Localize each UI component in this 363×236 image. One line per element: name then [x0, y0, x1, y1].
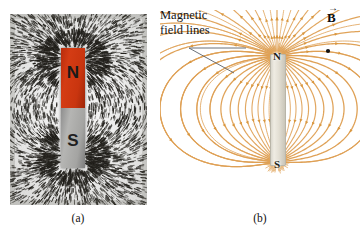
diagram-north-pole-label: N [265, 50, 289, 62]
field-line-arrowhead [266, 34, 270, 38]
field-line-arrowhead [257, 16, 261, 20]
field-line [181, 56, 276, 163]
photo-south-pole-label: S [61, 132, 85, 149]
field-line-arrowhead [294, 84, 298, 88]
field-line [181, 56, 275, 163]
field-line-arrowhead [256, 84, 260, 88]
field-line-arrowhead [306, 50, 309, 53]
field-line [181, 56, 276, 163]
field-line [278, 58, 333, 162]
diagram-south-pole-label: S [265, 158, 289, 170]
b-vector-label: → B [327, 6, 338, 24]
field-line-arrowhead [292, 16, 296, 20]
photo-north-pole-label: N [61, 64, 85, 81]
field-line-arrowhead [311, 122, 315, 126]
field-line-arrowhead [335, 42, 338, 45]
figure-magnetic-field-lines: N S N S Magnetic field lines → B (a) (b) [0, 0, 363, 236]
diagram-bar-magnet [270, 54, 286, 166]
photo-bar-magnet: N S [61, 48, 85, 168]
magnetic-field-lines-callout: Magnetic field lines [160, 8, 244, 39]
field-line-arrowhead [284, 34, 288, 38]
field-line-arrowhead [275, 17, 278, 20]
caption-panel-a: (a) [48, 212, 108, 224]
field-line [221, 58, 276, 162]
callout-line-1: Magnetic [160, 8, 244, 23]
callout-line-2: field lines [160, 23, 244, 38]
field-line-arrowhead [275, 35, 278, 38]
field-line-diagram [160, 10, 360, 206]
b-symbol: B [327, 10, 336, 25]
field-line-arrowhead [239, 122, 243, 126]
caption-panel-b: (b) [230, 212, 290, 224]
panel-a-photograph: N S [10, 14, 147, 205]
panel-b-diagram: N S [160, 10, 360, 206]
field-point-marker [326, 49, 330, 53]
